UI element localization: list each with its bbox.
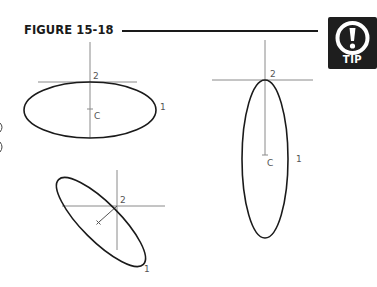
vertical-ellipse-group: 2 C 1 xyxy=(212,40,313,238)
rotated-ellipse xyxy=(45,166,157,278)
margin-bracket-marks xyxy=(0,123,2,152)
horizontal-ellipse-group: 2 C 1 xyxy=(24,42,166,138)
ellipse-figure-drawing: 2 C 1 2 C 1 2 1 xyxy=(0,0,377,287)
center-label: C xyxy=(94,111,100,121)
point-2-label: 2 xyxy=(270,69,276,79)
point-1-label: 1 xyxy=(160,102,166,112)
point-1-label: 1 xyxy=(296,154,302,164)
point-1-label: 1 xyxy=(144,264,150,274)
point-2-label: 2 xyxy=(120,195,126,205)
center-label: C xyxy=(267,158,273,168)
center-x-mark xyxy=(97,221,101,225)
point-2-label: 2 xyxy=(93,71,99,81)
rotated-ellipse-group: 2 1 xyxy=(45,166,165,278)
